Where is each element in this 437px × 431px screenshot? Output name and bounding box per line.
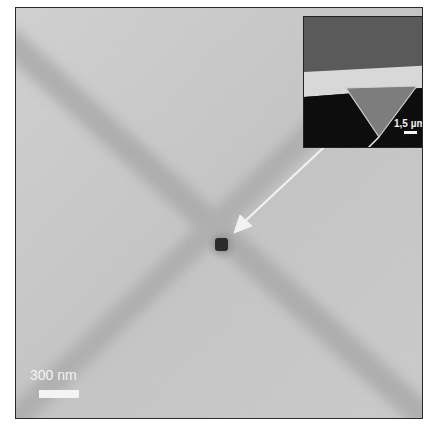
inset-image: 1,5 µm [303,16,423,148]
inset-scale-bar [404,131,417,134]
defect-spot [215,238,228,251]
scale-bar-label: 300 nm [30,367,77,383]
sem-image-frame: 1,5 µm 300 nm [15,7,423,419]
inset-scale-bar-label: 1,5 µm [394,118,423,129]
scale-bar [39,390,79,398]
